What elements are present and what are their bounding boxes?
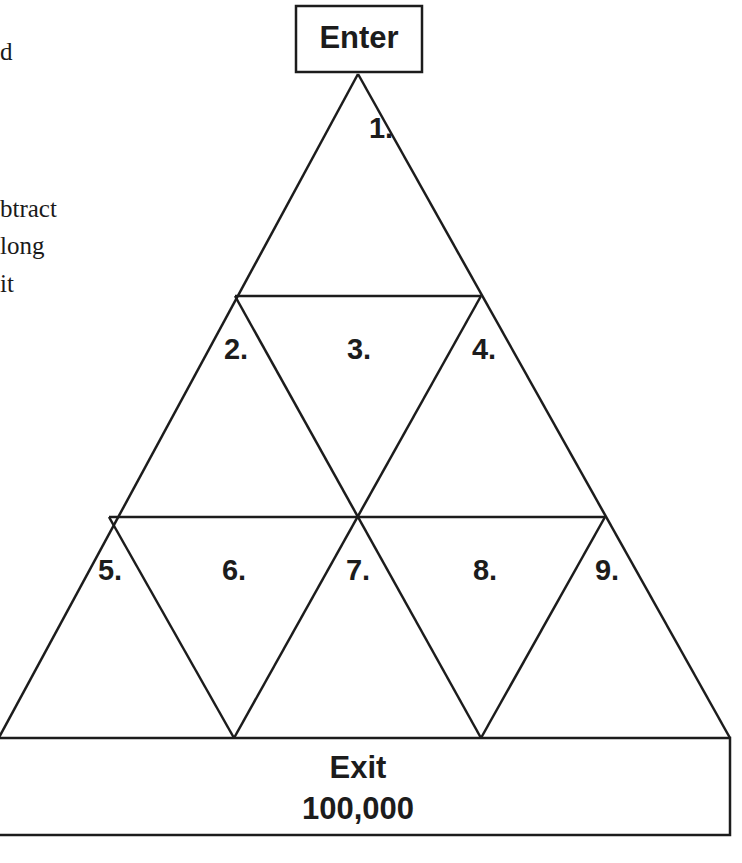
enter-label: Enter xyxy=(319,22,398,53)
exit-value: 100,000 xyxy=(302,793,414,824)
cell-label-2: 2. xyxy=(224,335,248,364)
cell-label-9: 9. xyxy=(595,556,619,585)
diagonal-8-9 xyxy=(481,517,605,738)
cell-label-1: 1. xyxy=(369,114,393,143)
exit-label: Exit xyxy=(330,752,387,783)
cell-label-5: 5. xyxy=(98,556,122,585)
cell-label-6: 6. xyxy=(222,556,246,585)
cell-label-7: 7. xyxy=(346,556,370,585)
diagonal-5-6 xyxy=(109,517,234,738)
cell-label-3: 3. xyxy=(347,335,371,364)
outer-left-edge xyxy=(0,74,358,754)
cell-label-4: 4. xyxy=(472,335,496,364)
outer-right-edge xyxy=(358,74,730,738)
cell-label-8: 8. xyxy=(473,556,497,585)
